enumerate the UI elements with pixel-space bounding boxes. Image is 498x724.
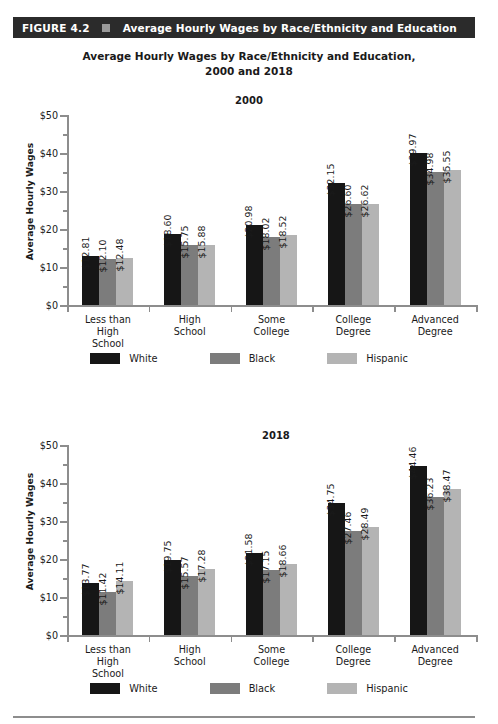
x-axis-tick <box>149 305 151 312</box>
y-axis-label: $50 <box>40 440 58 451</box>
bar-value-label: $17.28 <box>196 550 207 583</box>
plot-area: $0$10$20$30$40$50$13.77$11.42$14.11Less … <box>67 445 476 635</box>
bar-hispanic[interactable]: $38.47 <box>444 489 461 635</box>
y-axis-tick <box>60 521 67 523</box>
legend-item-black[interactable]: Black <box>210 683 276 694</box>
bar-value-label: $15.75 <box>179 226 190 259</box>
y-axis-label: $10 <box>40 262 58 273</box>
y-axis-tick <box>60 559 67 561</box>
bar-hispanic[interactable]: $35.55 <box>444 170 461 305</box>
legend-item-white[interactable]: White <box>90 353 158 364</box>
legend-label: Black <box>249 683 276 694</box>
x-axis-category-label: HighSchool <box>149 644 231 668</box>
x-axis-tick <box>394 305 396 312</box>
category-label-line: High <box>67 656 149 668</box>
figure-number: FIGURE 4.2 <box>22 22 90 34</box>
bar-hispanic[interactable]: $18.52 <box>280 235 297 305</box>
bar-value-label: $19.75 <box>162 541 173 574</box>
y-axis-tick <box>60 635 67 637</box>
bar-group: $18.60$15.75$15.88 <box>149 115 231 305</box>
x-axis-category-label: Less thanHighSchool <box>67 314 149 349</box>
y-axis-label: $50 <box>40 110 58 121</box>
bar-group: $39.97$34.98$35.55 <box>394 115 476 305</box>
y-axis-tick <box>60 483 67 485</box>
category-label-line: College <box>231 656 313 668</box>
legend-item-black[interactable]: Black <box>210 353 276 364</box>
x-axis-category-label: Less thanHighSchool <box>67 644 149 679</box>
bar-value-label: $12.10 <box>97 240 108 273</box>
category-label-line: Some <box>231 644 313 656</box>
legend-item-hispanic[interactable]: Hispanic <box>327 683 408 694</box>
y-axis-label: $0 <box>46 300 58 311</box>
figure-header-title: Average Hourly Wages by Race/Ethnicity a… <box>123 22 457 34</box>
y-axis-label: $20 <box>40 224 58 235</box>
x-axis-category-label: HighSchool <box>149 314 231 338</box>
legend-label: Black <box>249 353 276 364</box>
legend-item-hispanic[interactable]: Hispanic <box>327 353 408 364</box>
legend-swatch <box>90 353 120 364</box>
category-label-line: School <box>149 656 231 668</box>
bar-black[interactable]: $11.42 <box>99 592 116 635</box>
bar-value-label: $36.23 <box>424 478 435 511</box>
bar-group-bars: $13.77$11.42$14.11 <box>82 445 133 635</box>
bar-hispanic[interactable]: $28.49 <box>362 527 379 635</box>
bar-group-bars: $18.60$15.75$15.88 <box>164 115 215 305</box>
y-axis-label: $10 <box>40 592 58 603</box>
bar-value-label: $20.98 <box>243 206 254 239</box>
bar-hispanic[interactable]: $18.66 <box>280 564 297 635</box>
legend-item-white[interactable]: White <box>90 683 158 694</box>
bar-group: $34.75$27.46$28.49 <box>312 445 394 635</box>
bar-black[interactable]: $26.60 <box>345 204 362 305</box>
x-axis-tick <box>231 305 233 312</box>
x-axis-category-label: AdvancedDegree <box>394 644 476 668</box>
category-label-line: Some <box>231 314 313 326</box>
x-axis-category-label: SomeCollege <box>231 644 313 668</box>
bar-group-bars: $20.98$18.02$18.52 <box>246 115 297 305</box>
plot-area: $0$10$20$30$40$50$12.81$12.10$12.48Less … <box>67 115 476 305</box>
y-axis-label: $40 <box>40 478 58 489</box>
x-axis-category-label: CollegeDegree <box>312 644 394 668</box>
category-label-line: Degree <box>394 656 476 668</box>
x-axis-category-label: AdvancedDegree <box>394 314 476 338</box>
legend-label: White <box>129 353 158 364</box>
bar-black[interactable]: $34.98 <box>427 172 444 305</box>
bar-value-label: $34.75 <box>325 484 336 517</box>
bar-group-bars: $32.15$26.60$26.62 <box>328 115 379 305</box>
bar-hispanic[interactable]: $15.88 <box>198 245 215 305</box>
bar-value-label: $13.77 <box>80 563 91 596</box>
chart-panel-2018: 2018 Average Hourly Wages $0$10$20$30$40… <box>0 418 498 718</box>
category-label-line: College <box>231 326 313 338</box>
category-label-line: School <box>67 668 149 680</box>
y-axis-tick <box>60 229 67 231</box>
bar-group-bars: $21.58$17.15$18.66 <box>246 445 297 635</box>
bar-hispanic[interactable]: $17.28 <box>198 569 215 635</box>
bar-group-bars: $12.81$12.10$12.48 <box>82 115 133 305</box>
x-axis-tick <box>67 305 69 312</box>
bar-black[interactable]: $17.15 <box>263 570 280 635</box>
bar-value-label: $17.15 <box>260 550 271 583</box>
bar-black[interactable]: $27.46 <box>345 531 362 635</box>
bar-value-label: $12.48 <box>114 238 125 271</box>
footer-divider <box>13 716 475 718</box>
bar-value-label: $18.66 <box>277 545 288 578</box>
bar-hispanic[interactable]: $26.62 <box>362 204 379 305</box>
chart-main-title-line1: Average Hourly Wages by Race/Ethnicity a… <box>0 49 498 64</box>
bar-value-label: $18.60 <box>162 215 173 248</box>
bar-hispanic[interactable]: $12.48 <box>116 258 133 305</box>
y-axis-tick <box>60 115 67 117</box>
y-axis-tick <box>60 191 67 193</box>
y-axis-label: $20 <box>40 554 58 565</box>
legend-label: White <box>129 683 158 694</box>
bar-black[interactable]: $36.23 <box>427 497 444 635</box>
x-axis-tick <box>476 635 478 642</box>
bar-hispanic[interactable]: $14.11 <box>116 581 133 635</box>
bar-value-label: $27.46 <box>342 511 353 544</box>
y-axis-label: $30 <box>40 516 58 527</box>
bar-black[interactable]: $15.57 <box>181 576 198 635</box>
category-label-line: High <box>149 314 231 326</box>
x-axis-tick <box>149 635 151 642</box>
chart-main-title-line2: 2000 and 2018 <box>0 64 498 79</box>
x-axis-tick <box>67 635 69 642</box>
y-axis-tick <box>60 305 67 307</box>
x-axis-category-label: SomeCollege <box>231 314 313 338</box>
